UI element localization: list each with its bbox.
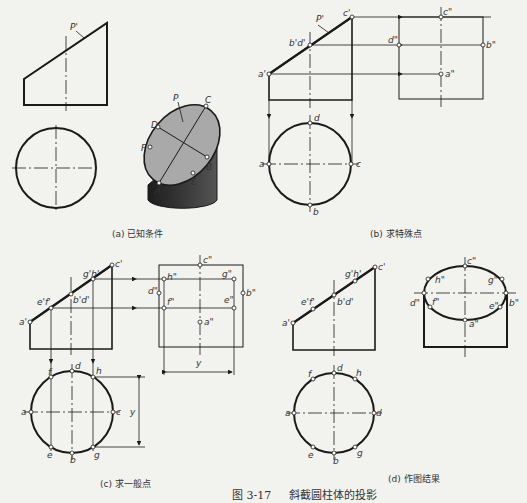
svg-text:e": e"	[489, 301, 499, 311]
figure-number: 图 3-17	[232, 489, 271, 502]
caption-d: (d) 作图结果	[388, 473, 440, 484]
svg-text:d": d"	[410, 298, 420, 308]
label-p-prime: P'	[70, 22, 78, 32]
figure-canvas: P' P C D F B A E (a) 已知条件	[0, 0, 527, 503]
panel-a	[12, 23, 235, 212]
svg-text:b": b"	[486, 40, 496, 50]
svg-text:h": h"	[167, 272, 177, 282]
svg-text:c": c"	[203, 255, 212, 265]
svg-text:c: c	[116, 407, 121, 417]
svg-text:h: h	[96, 366, 102, 376]
svg-text:a: a	[285, 408, 291, 418]
svg-text:d": d"	[148, 286, 158, 296]
svg-text:a': a'	[258, 69, 266, 79]
panel-b-labels: P' c' b'd' a' c" d" b" a" d a c b (b) 求特…	[258, 7, 496, 239]
svg-text:d": d"	[388, 35, 398, 45]
svg-text:P': P'	[316, 14, 324, 24]
svg-text:B: B	[206, 162, 212, 172]
svg-text:b: b	[333, 456, 339, 466]
svg-text:e'f': e'f'	[37, 297, 51, 307]
svg-text:d: d	[376, 408, 382, 418]
svg-text:y: y	[129, 407, 136, 417]
svg-text:g'h': g'h'	[83, 269, 99, 279]
svg-text:b": b"	[246, 288, 256, 298]
panel-c	[24, 255, 245, 460]
svg-text:g: g	[357, 448, 363, 458]
projection-drawing: P' P C D F B A E (a) 已知条件	[0, 0, 527, 503]
caption-c: (c) 求一般点	[100, 478, 151, 489]
caption-b: (b) 求特殊点	[370, 228, 422, 239]
svg-text:P: P	[173, 93, 179, 103]
svg-text:f": f"	[167, 297, 174, 307]
svg-text:f": f"	[432, 297, 439, 307]
svg-text:E: E	[191, 177, 197, 187]
svg-text:g": g"	[488, 275, 498, 285]
svg-text:g'h': g'h'	[345, 269, 361, 279]
svg-text:b'd': b'd'	[337, 297, 353, 307]
svg-text:e'f': e'f'	[301, 297, 315, 307]
svg-text:b'd': b'd'	[289, 38, 305, 48]
svg-text:h: h	[356, 368, 362, 378]
figure-title: 斜截圆柱体的投影	[289, 488, 377, 502]
svg-text:a": a"	[445, 69, 455, 79]
front-view-outline	[24, 23, 107, 105]
svg-text:b: b	[313, 207, 319, 217]
svg-text:h": h"	[435, 275, 445, 285]
svg-text:c: c	[356, 159, 361, 169]
caption-a: (a) 已知条件	[112, 228, 163, 239]
svg-text:c': c'	[378, 262, 385, 272]
svg-text:c": c"	[443, 7, 452, 17]
svg-text:g: g	[94, 450, 100, 460]
svg-text:c': c'	[343, 8, 350, 18]
svg-text:a: a	[259, 159, 265, 169]
svg-text:a': a'	[19, 317, 27, 327]
svg-text:F: F	[141, 143, 147, 153]
svg-text:c": c"	[467, 256, 476, 266]
svg-text:D: D	[151, 120, 158, 130]
svg-text:e: e	[47, 450, 53, 460]
svg-text:C: C	[205, 95, 212, 105]
svg-text:a': a'	[282, 318, 290, 328]
svg-text:e": e"	[224, 295, 234, 305]
svg-text:d: d	[314, 113, 320, 123]
svg-text:a": a"	[469, 319, 479, 329]
svg-text:d: d	[337, 363, 343, 373]
svg-text:A: A	[154, 186, 161, 196]
svg-text:b": b"	[509, 298, 519, 308]
svg-text:y: y	[195, 358, 202, 368]
svg-text:b'd': b'd'	[73, 295, 89, 305]
svg-text:c': c'	[115, 259, 122, 269]
svg-text:a: a	[21, 407, 27, 417]
panel-d	[286, 257, 516, 460]
svg-text:e: e	[308, 450, 314, 460]
svg-text:d: d	[75, 361, 81, 371]
svg-text:b: b	[70, 455, 76, 465]
svg-text:g": g"	[222, 269, 232, 279]
svg-text:a": a"	[204, 317, 214, 327]
